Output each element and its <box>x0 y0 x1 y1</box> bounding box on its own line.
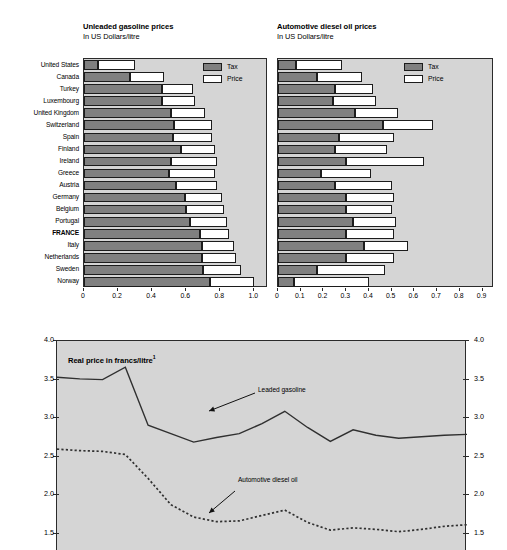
left-chart-subtitle: In US Dollars/litre <box>83 32 173 42</box>
axis-tick-label: 0.4 <box>146 292 156 300</box>
bar-segment-tax <box>84 145 181 155</box>
bar-row <box>84 205 266 215</box>
bar-segment-tax <box>278 157 346 167</box>
line-chart-y-label-left: 1.5 <box>44 529 54 537</box>
bar-segment-tax <box>278 145 335 155</box>
bar-segment-tax <box>278 181 335 191</box>
right-chart-title: Automotive diesel oil prices <box>277 22 376 32</box>
bar-segment-price <box>383 120 433 130</box>
bar-segment-price <box>321 169 371 179</box>
bar-segment-price <box>335 84 374 94</box>
line-chart-y-label-right: 4.0 <box>474 336 484 344</box>
bar-segment-price <box>364 241 407 251</box>
bar-segment-price <box>130 72 164 82</box>
legend-swatch-tax <box>203 63 222 71</box>
axis-tick <box>219 288 220 291</box>
bar-segment-tax <box>84 229 200 239</box>
category-label: Luxembourg <box>43 97 79 104</box>
axis-tick <box>300 288 301 291</box>
category-label: Canada <box>57 73 80 80</box>
bar-charts-section: Unleaded gasoline prices In US Dollars/l… <box>0 0 507 312</box>
left-chart-title: Unleaded gasoline prices <box>83 22 173 32</box>
bar-segment-tax <box>84 169 169 179</box>
bar-segment-price <box>98 60 135 70</box>
legend-label: Tax <box>428 63 439 71</box>
category-label: Sweden <box>56 265 79 272</box>
axis-tick <box>253 288 254 291</box>
annotation-arrow <box>209 393 255 411</box>
bar-segment-price <box>346 193 394 203</box>
category-label: FRANCE <box>52 229 79 236</box>
axis-tick <box>436 288 437 291</box>
line-chart-y-tick-right <box>463 494 469 495</box>
axis-tick <box>391 288 392 291</box>
bar-row <box>278 181 492 191</box>
line-chart-title-text: Real price in francs/litre <box>68 356 153 365</box>
bar-row <box>278 133 492 143</box>
bar-row <box>84 96 266 106</box>
bar-segment-price <box>317 72 362 82</box>
bar-segment-price <box>294 277 369 287</box>
category-label: Germany <box>53 193 79 200</box>
bar-segment-tax <box>84 72 130 82</box>
axis-tick <box>482 288 483 291</box>
axis-tick-label: 0.5 <box>386 292 396 300</box>
legend-swatch-price <box>203 75 222 83</box>
category-label: Norway <box>57 277 79 284</box>
bar-row <box>278 108 492 118</box>
line-chart-plot-area <box>56 340 466 550</box>
axis-tick <box>83 288 84 291</box>
axis-tick <box>459 288 460 291</box>
right-chart-subtitle: In US Dollars/litre <box>277 32 376 42</box>
line-chart-y-label-right: 1.5 <box>474 529 484 537</box>
bar-row <box>84 217 266 227</box>
line-chart-y-tick-right <box>463 379 469 380</box>
bar-segment-tax <box>84 96 162 106</box>
bar-segment-price <box>335 145 387 155</box>
category-label: Portugal <box>55 217 79 224</box>
axis-tick-label: 0.6 <box>409 292 419 300</box>
bar-segment-tax <box>84 157 171 167</box>
axis-tick-label: 0.3 <box>340 292 350 300</box>
line-chart-title-footnote: 1 <box>153 354 156 360</box>
axis-tick-label: 0 <box>81 292 85 300</box>
bar-segment-price <box>176 181 217 191</box>
bar-segment-tax <box>278 108 355 118</box>
bar-segment-tax <box>278 120 383 130</box>
axis-tick <box>185 288 186 291</box>
bar-segment-tax <box>84 277 210 287</box>
line-chart-title: Real price in francs/litre1 <box>68 354 156 365</box>
bar-segment-tax <box>278 205 346 215</box>
bar-segment-price <box>317 265 385 275</box>
axis-tick <box>413 288 414 291</box>
bar-segment-price <box>355 108 398 118</box>
bar-row <box>278 145 492 155</box>
bar-row <box>84 120 266 130</box>
legend-swatch-price <box>404 75 423 83</box>
bar-segment-tax <box>278 241 364 251</box>
axis-tick-label: 1.0 <box>249 292 259 300</box>
bar-segment-tax <box>278 253 346 263</box>
axis-tick-label: 0 <box>275 292 279 300</box>
bar-segment-price <box>190 217 227 227</box>
bar-segment-price <box>333 96 376 106</box>
bar-row <box>278 60 492 70</box>
legend-label: Price <box>428 75 444 83</box>
bar-segment-tax <box>278 72 317 82</box>
axis-tick-label: 0.1 <box>295 292 305 300</box>
bar-row <box>278 96 492 106</box>
bar-segment-price <box>171 108 205 118</box>
line-chart-y-label-right: 2.0 <box>474 490 484 498</box>
bar-segment-price <box>335 181 392 191</box>
axis-tick-label: 0.4 <box>363 292 373 300</box>
bar-row <box>278 84 492 94</box>
bar-row <box>84 241 266 251</box>
axis-tick <box>345 288 346 291</box>
bar-segment-price <box>202 253 236 263</box>
bar-row <box>84 277 266 287</box>
category-label: Netherlands <box>45 253 79 260</box>
bar-segment-price <box>346 157 423 167</box>
category-label: Belgium <box>56 205 79 212</box>
bar-segment-price <box>339 133 394 143</box>
axis-tick <box>277 288 278 291</box>
